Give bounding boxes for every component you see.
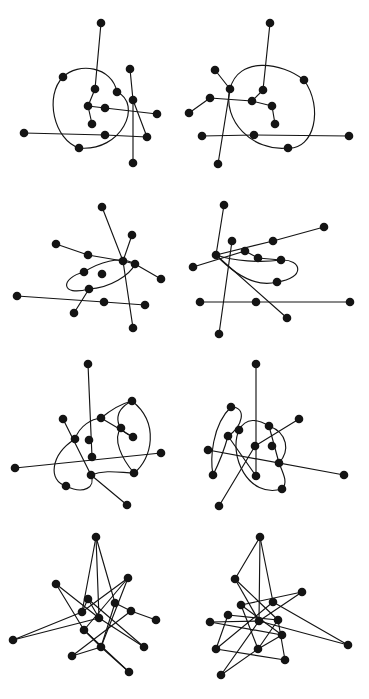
graph-node	[52, 240, 61, 249]
graph-canvas-row-3-left	[0, 347, 184, 515]
graph-node	[141, 301, 150, 310]
graph-node	[78, 608, 87, 617]
graph-node	[9, 636, 18, 645]
graph-panel-row-3-right	[184, 347, 369, 515]
graph-node	[101, 104, 110, 113]
graph-edge	[216, 205, 224, 255]
graph-edge	[104, 302, 145, 305]
node-layer	[204, 360, 349, 511]
graph-edge	[89, 264, 135, 289]
graph-node	[128, 397, 137, 406]
graph-canvas-row-3-right	[184, 347, 369, 515]
graph-node	[206, 618, 215, 627]
graph-node	[284, 144, 293, 153]
graph-node	[224, 432, 233, 441]
graph-node	[237, 601, 246, 610]
graph-node	[251, 442, 260, 451]
graph-edge	[91, 475, 127, 505]
graph-node	[215, 330, 224, 339]
graph-edge	[102, 207, 123, 261]
graph-node	[88, 453, 97, 462]
graph-node	[128, 231, 137, 240]
graph-node	[100, 298, 109, 307]
graph-canvas-row-1-right	[184, 0, 369, 175]
graph-node	[111, 599, 120, 608]
graph-node	[226, 85, 235, 94]
graph-panel-row-2-right	[184, 175, 369, 347]
graph-node	[255, 617, 264, 626]
graph-node	[241, 247, 250, 256]
graph-node	[220, 201, 229, 210]
graph-edge	[95, 23, 101, 89]
graph-node	[265, 422, 274, 431]
graph-edge	[255, 419, 299, 446]
graph-node	[283, 314, 292, 323]
graph-node	[88, 120, 97, 129]
graph-node	[62, 482, 71, 491]
graph-node	[129, 159, 138, 168]
graph-node	[125, 668, 134, 677]
node-layer	[189, 201, 355, 339]
graph-canvas-row-1-left	[0, 0, 184, 175]
graph-node	[271, 120, 280, 129]
graph-edge	[230, 65, 304, 89]
graph-node	[92, 533, 101, 542]
node-layer	[11, 360, 166, 510]
graph-edge	[259, 537, 260, 621]
graph-edge	[56, 244, 88, 255]
graph-node	[268, 442, 277, 451]
graph-node	[231, 575, 240, 584]
graph-node	[273, 278, 282, 287]
graph-node	[13, 292, 22, 301]
graph-node	[320, 223, 329, 232]
graph-node	[269, 598, 278, 607]
node-layer	[185, 19, 354, 169]
graph-edge	[210, 621, 259, 622]
graph-node	[131, 260, 140, 269]
graph-node	[300, 76, 309, 85]
graph-node	[84, 251, 93, 260]
graph-edge	[79, 92, 128, 148]
graph-node	[266, 19, 275, 28]
graph-edge	[229, 89, 288, 148]
graph-node	[98, 203, 107, 212]
graph-node	[189, 263, 198, 272]
graph-panel-row-1-right	[184, 0, 369, 175]
graph-panel-row-3-left	[0, 347, 184, 515]
graph-edge	[63, 419, 91, 475]
graph-node	[97, 643, 106, 652]
graph-node	[346, 298, 355, 307]
graph-node	[269, 237, 278, 246]
graph-node	[11, 464, 20, 473]
graph-node	[85, 285, 94, 294]
graph-node	[157, 275, 166, 284]
graph-edge	[72, 647, 101, 656]
graph-node	[254, 645, 263, 654]
graph-panel-row-4-left	[0, 515, 184, 699]
graph-node	[281, 656, 290, 665]
graph-node	[185, 109, 194, 118]
graph-edge	[278, 620, 285, 660]
edge-layer	[24, 23, 157, 163]
graph-node	[215, 502, 224, 511]
graph-edge	[133, 100, 147, 137]
graph-node	[256, 533, 265, 542]
graph-node	[278, 485, 287, 494]
graph-panel-row-1-left	[0, 0, 184, 175]
node-layer	[9, 533, 161, 677]
graph-node	[252, 298, 261, 307]
edge-layer	[13, 537, 156, 672]
graph-node	[214, 160, 223, 169]
graph-node	[124, 574, 133, 583]
graph-node	[206, 94, 215, 103]
graph-node	[275, 459, 284, 468]
graph-node	[198, 132, 207, 141]
edge-layer	[189, 23, 349, 164]
graph-edge	[13, 612, 82, 640]
graph-edge	[288, 80, 315, 148]
graph-node	[126, 65, 135, 74]
graph-edge	[15, 453, 161, 468]
graph-node	[248, 97, 257, 106]
graph-edge	[130, 69, 133, 100]
graph-edge	[235, 537, 260, 579]
